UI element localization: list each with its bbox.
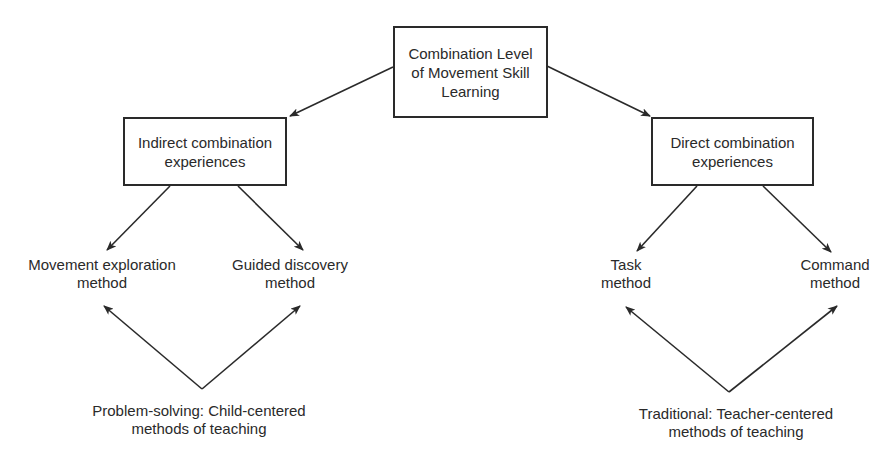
command-method-label: Command method [800,256,869,292]
arrow-indirect-to-guided [238,186,303,250]
arrow-problem-solving-to-guided [202,306,300,389]
indirect-line-1: Indirect combination [138,133,272,152]
arrow-indirect-to-exploration [107,186,170,250]
direct-combination-box: Direct combination experiences [651,117,814,186]
arrow-root-to-indirect [290,67,393,116]
root-box: Combination Level of Movement Skill Lear… [393,26,548,118]
indirect-line-2: experiences [165,152,246,171]
arrow-direct-to-task [637,186,697,251]
guided-discovery-method-label: Guided discovery method [232,256,348,292]
arrow-root-to-direct [547,66,650,116]
indirect-combination-box: Indirect combination experiences [123,117,287,186]
movement-exploration-method-label: Movement exploration method [28,256,176,292]
root-line-3: Learning [441,82,499,101]
arrow-traditional-to-command [729,306,837,392]
direct-line-1: Direct combination [670,133,794,152]
direct-line-2: experiences [692,152,773,171]
problem-solving-category-label: Problem-solving: Child-centered methods … [92,402,305,438]
traditional-category-label: Traditional: Teacher-centered methods of… [639,405,833,441]
arrow-problem-solving-to-exploration [104,306,202,389]
arrow-traditional-to-task [626,307,729,392]
movement-skill-diagram: Combination Level of Movement Skill Lear… [0,0,893,461]
root-line-2: of Movement Skill [411,63,529,82]
arrow-direct-to-command [763,186,831,252]
task-method-label: Task method [601,256,651,292]
root-line-1: Combination Level [408,44,532,63]
